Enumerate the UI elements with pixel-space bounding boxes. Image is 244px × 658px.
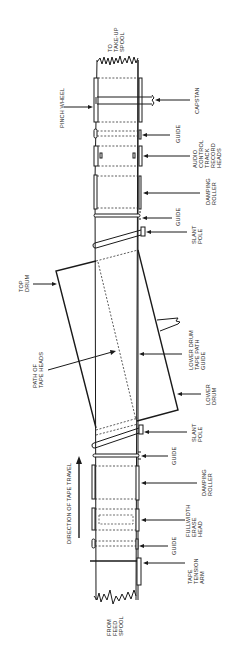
guide-lower — [93, 452, 141, 459]
label-fullwidth-erase-head: FULLWIDTH ERASE HEAD — [185, 505, 203, 538]
label-top-drum: TOP DRUM — [18, 275, 30, 292]
svg-text:ROLLER: ROLLER — [211, 182, 217, 205]
guide-upper — [94, 212, 141, 219]
slant-pole-lower — [92, 424, 143, 448]
label-to-takeup-spool: TO TAKE-UP SPOOL — [107, 27, 125, 52]
damping-roller-bottom — [92, 465, 139, 500]
svg-text:DRUM: DRUM — [24, 275, 30, 292]
label-damping-roller-bottom: DAMPING ROLLER — [201, 469, 213, 496]
fullwidth-erase-head — [92, 508, 139, 531]
damping-roller-top — [94, 175, 141, 209]
svg-text:DRUM: DRUM — [211, 388, 217, 405]
label-audio-control-track-record-heads: AUDIO CONTROL TRACK RECORD HEADS — [192, 140, 222, 168]
svg-text:POLE: POLE — [197, 229, 203, 244]
label-direction-of-tape-travel: DIRECTION OF TAPE TRAVEL — [66, 463, 72, 544]
label-slant-pole-upper: SLANT POLE — [191, 225, 203, 244]
svg-text:GUIDE: GUIDE — [175, 208, 181, 226]
tape-torn-top-icon — [97, 56, 138, 65]
label-guide-top: GUIDE — [175, 125, 181, 143]
label-guide-lower: GUIDE — [171, 447, 177, 465]
svg-text:GUIDE: GUIDE — [171, 537, 177, 555]
tape-torn-bottom-icon — [94, 590, 136, 604]
label-damping-roller-top: DAMPING ROLLER — [205, 178, 217, 205]
svg-text:GUIDE: GUIDE — [200, 352, 206, 370]
label-pinch-wheel: PINCH WHEEL — [59, 88, 65, 128]
svg-text:GUIDE: GUIDE — [175, 125, 181, 143]
label-guide-upper: GUIDE — [175, 208, 181, 226]
svg-text:DIRECTION OF TAPE TRAVEL: DIRECTION OF TAPE TRAVEL — [66, 463, 72, 544]
svg-text:SPOOL: SPOOL — [119, 32, 125, 52]
svg-text:TAPE HEADS: TAPE HEADS — [38, 352, 44, 388]
label-tape-tension-arm: TAPE TENSION ARM — [187, 558, 205, 584]
svg-text:GUIDE: GUIDE — [171, 447, 177, 465]
label-lower-drum-tape-path-guide: LOWER DRUM TAPE PATH GUIDE — [188, 330, 206, 370]
svg-text:PINCH WHEEL: PINCH WHEEL — [59, 88, 65, 128]
direction-arrowhead-icon — [76, 456, 82, 464]
capstan — [96, 95, 154, 106]
label-slant-pole-lower: SLANT POLE — [191, 423, 203, 442]
tape-strip — [94, 56, 138, 604]
label-lower-drum: LOWER DRUM — [205, 384, 217, 405]
label-path-of-tape-heads: PATH OF TAPE HEADS — [32, 352, 44, 388]
tape-tension-arm — [90, 558, 141, 585]
label-from-feed-spool: FROM FEED SPOOL — [106, 616, 124, 636]
path-of-tape-heads — [98, 262, 136, 420]
svg-text:ARM: ARM — [199, 571, 205, 584]
top-drum — [56, 250, 138, 430]
lower-drum — [137, 250, 180, 421]
guide-bottom — [92, 539, 138, 549]
audio-control-heads — [94, 146, 142, 166]
svg-text:CAPSTAN: CAPSTAN — [194, 87, 200, 114]
leader-lines — [33, 98, 201, 565]
svg-text:ROLLER: ROLLER — [207, 473, 213, 496]
svg-text:POLE: POLE — [197, 427, 203, 442]
svg-text:HEADS: HEADS — [216, 148, 222, 168]
svg-text:SPOOL: SPOOL — [118, 616, 124, 636]
pinch-wheel — [94, 78, 142, 122]
label-capstan: CAPSTAN — [194, 87, 200, 114]
label-guide-bottom: GUIDE — [171, 537, 177, 555]
tape-path-diagram: TO TAKE-UP SPOOL PINCH WHEEL CAPSTAN GUI… — [0, 0, 244, 658]
svg-text:HEAD: HEAD — [197, 521, 203, 537]
guide-top — [94, 129, 141, 139]
